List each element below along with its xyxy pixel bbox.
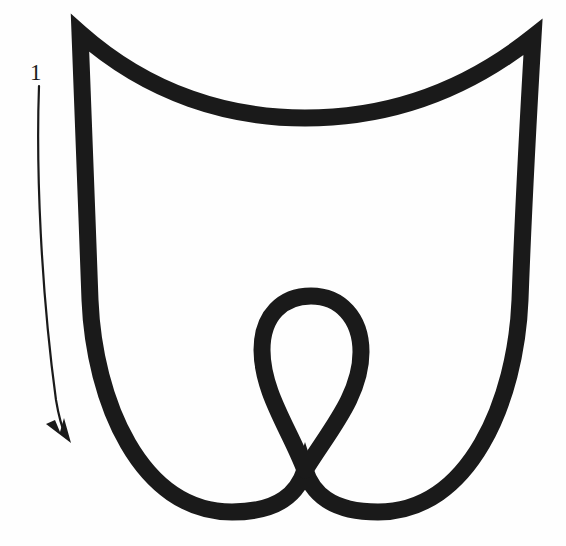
- orientation-arrow-line: [38, 86, 66, 437]
- knot-outline-path: [80, 33, 533, 512]
- strand-label-1: 1: [30, 60, 42, 85]
- knot-central-loop-path: [262, 296, 361, 470]
- knot-diagram-canvas: 1: [0, 0, 566, 546]
- knot-diagram-figure: 1: [0, 0, 566, 546]
- orientation-arrow-head-icon: [46, 418, 71, 443]
